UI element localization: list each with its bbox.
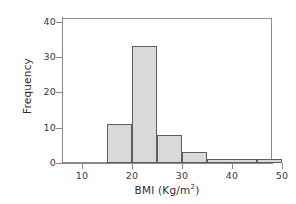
y-tick-mark xyxy=(56,128,62,129)
histogram-figure: 010203040 1020304050 BMI (Kg/m2) Frequen… xyxy=(0,0,296,204)
y-tick-label: 0 xyxy=(16,157,56,168)
y-axis-title: Frequency xyxy=(21,36,33,136)
histogram-bar xyxy=(107,124,132,163)
x-tick-label: 20 xyxy=(112,170,152,181)
histogram-bar xyxy=(132,46,157,163)
x-tick-label: 40 xyxy=(212,170,252,181)
y-tick-label: 40 xyxy=(16,16,56,27)
x-tick-label: 30 xyxy=(162,170,202,181)
x-tick-mark xyxy=(132,163,133,169)
x-axis-title-close: ) xyxy=(195,184,199,196)
x-axis-title-base: BMI (Kg/m xyxy=(135,184,191,196)
x-tick-mark xyxy=(82,163,83,169)
y-axis-line xyxy=(62,17,63,164)
histogram-bar xyxy=(182,152,207,163)
histogram-bar xyxy=(157,135,182,163)
x-axis-line xyxy=(61,163,273,164)
bars-container xyxy=(62,18,272,163)
y-tick-mark xyxy=(56,163,62,164)
x-tick-mark xyxy=(232,163,233,169)
y-tick-mark xyxy=(56,57,62,58)
y-tick-mark xyxy=(56,22,62,23)
x-tick-label: 50 xyxy=(262,170,296,181)
y-tick-mark xyxy=(56,92,62,93)
x-axis-title: BMI (Kg/m2) xyxy=(62,183,272,196)
x-tick-mark xyxy=(282,163,283,169)
x-tick-mark xyxy=(182,163,183,169)
x-tick-label: 10 xyxy=(62,170,102,181)
